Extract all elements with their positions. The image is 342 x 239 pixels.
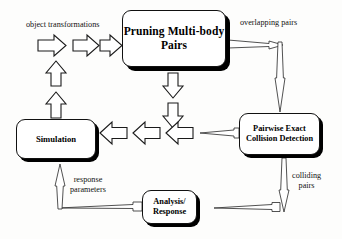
arrow-left-1 (100, 122, 127, 144)
arrow-sim-up-1 (46, 61, 66, 86)
node-analysis-response[interactable]: Analysis/ Response (142, 190, 197, 224)
edge-label-object-transformations: object transformations (26, 20, 99, 30)
arrow-prune-down-1 (163, 73, 183, 98)
arrow-pairwise-to-left (200, 128, 239, 138)
node-pruning-multi-body-pairs[interactable]: Pruning Multi-body Pairs (122, 10, 226, 67)
arrow-transform-3 (100, 35, 122, 56)
arrow-overlapping-vertical (275, 42, 285, 112)
arrow-prune-down-2 (163, 103, 183, 128)
arrow-colliding-horizontal (214, 203, 280, 212)
arrow-sim-up-2 (46, 92, 66, 118)
node-pairwise-exact-collision-detection[interactable]: Pairwise Exact Collision Detection (239, 113, 320, 155)
arrow-overlapping-horizontal (228, 40, 283, 49)
arrow-response-horizontal (58, 202, 142, 211)
diagram-canvas: Pruning Multi-body Pairs Pairwise Exact … (0, 0, 342, 239)
arrow-transform-2 (73, 35, 99, 56)
arrow-response-vertical (55, 164, 65, 209)
edge-label-response-parameters: response parameters (70, 175, 106, 195)
arrow-transform-1 (38, 35, 66, 56)
edge-label-colliding-pairs: colliding pairs (292, 171, 321, 191)
arrow-left-2 (133, 122, 160, 144)
node-simulation[interactable]: Simulation (16, 119, 96, 159)
arrow-colliding-vertical (279, 158, 289, 212)
edge-label-overlapping-pairs: overlapping pairs (240, 18, 297, 28)
